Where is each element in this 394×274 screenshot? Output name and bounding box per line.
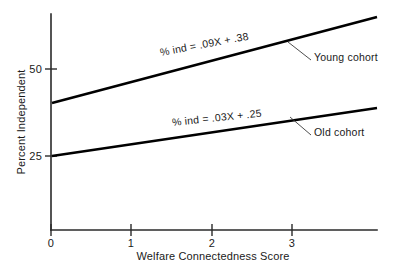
- x-tick-label-1: 1: [128, 237, 134, 249]
- x-tick-label-2: 2: [209, 237, 215, 249]
- series-label-young-cohort: Young cohort: [314, 51, 378, 63]
- leader-line-young-cohort: [288, 42, 311, 60]
- chart-figure: 0 1 2 3 50 25 Welfare Connectedness Scor…: [0, 0, 394, 274]
- series-label-old-cohort: Old cohort: [314, 126, 364, 138]
- y-tick-label-25: 25: [29, 150, 42, 162]
- x-tick-label-3: 3: [289, 237, 295, 249]
- x-axis-title: Welfare Connectedness Score: [136, 250, 289, 262]
- x-tick-label-0: 0: [48, 237, 54, 249]
- y-tick-label-50: 50: [29, 63, 42, 75]
- y-axis-title: Percent Independent: [15, 70, 27, 175]
